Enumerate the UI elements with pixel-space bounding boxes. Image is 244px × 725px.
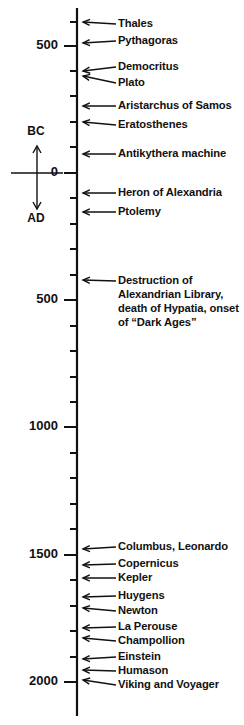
axis-tick-label-500-1: 500 (36, 37, 58, 52)
event-leader-kepler (83, 575, 116, 581)
event-leader-champollion (83, 636, 116, 642)
era-label-bc: BC (27, 124, 45, 138)
event-label-antikythera: Antikythera machine (118, 147, 226, 159)
event-label-champollion: Champollion (118, 634, 185, 646)
event-label-columbus: Columbus, Leonardo (118, 540, 228, 552)
event-label-line: Ptolemy (118, 205, 162, 217)
event-leader-humason (83, 667, 116, 673)
event-label-line: Plato (118, 76, 145, 88)
event-label-pythagoras: Pythagoras (118, 34, 178, 46)
axis-tick-label-2000-26: 2000 (29, 673, 58, 688)
event-label-democritus: Democritus (118, 60, 179, 72)
event-label-line: Copernicus (118, 557, 179, 569)
event-leader-viking (83, 678, 116, 685)
event-label-ptolemy: Ptolemy (118, 205, 162, 217)
axis-tick-label-1000-16: 1000 (29, 418, 58, 433)
axis-tick-label-0-6: 0 (51, 164, 58, 179)
event-label-line: Pythagoras (118, 34, 178, 46)
event-label-line: Champollion (118, 634, 185, 646)
event-leader-eratosthenes (83, 120, 116, 126)
event-label-eratosthenes: Eratosthenes (118, 118, 188, 130)
event-label-newton: Newton (118, 604, 158, 616)
event-label-line: of “Dark Ages” (118, 316, 196, 328)
event-label-line: Newton (118, 604, 158, 616)
event-label-line: Eratosthenes (118, 118, 188, 130)
event-label-line: Aristarchus of Samos (118, 99, 232, 111)
event-label-line: Heron of Alexandria (118, 186, 223, 198)
event-label-line: Humason (118, 664, 169, 676)
event-label-humason: Humason (118, 664, 169, 676)
event-label-copernicus: Copernicus (118, 557, 179, 569)
event-leader-newton (83, 606, 116, 612)
event-label-line: Thales (118, 17, 153, 29)
event-leader-thales (83, 19, 116, 25)
event-label-viking: Viking and Voyager (118, 678, 220, 690)
event-label-aristarchus: Aristarchus of Samos (118, 99, 232, 111)
event-leader-ptolemy (83, 209, 116, 215)
event-label-la-perouse: La Perouse (118, 620, 177, 632)
event-leader-huygens (83, 594, 116, 600)
event-label-line: Destruction of (118, 274, 193, 286)
event-label-einstein: Einstein (118, 650, 161, 662)
event-leader-alexandria (83, 277, 116, 283)
event-label-line: Viking and Voyager (118, 678, 220, 690)
event-label-alexandria: Destruction ofAlexandrian Library,death … (118, 274, 239, 328)
event-label-line: Huygens (118, 589, 165, 601)
event-leader-group (83, 19, 116, 685)
event-label-huygens: Huygens (118, 589, 165, 601)
event-leader-la-perouse (83, 625, 116, 631)
event-label-line: Kepler (118, 571, 153, 583)
event-leader-columbus (83, 546, 116, 552)
axis-tick-label-500-11: 500 (36, 291, 58, 306)
event-label-line: Alexandrian Library, (118, 288, 223, 300)
event-label-thales: Thales (118, 17, 153, 29)
event-leader-pythagoras (83, 40, 116, 46)
event-leader-antikythera (83, 151, 116, 157)
event-leader-heron (83, 190, 116, 196)
event-label-kepler: Kepler (118, 571, 153, 583)
event-label-group: ThalesPythagorasDemocritusPlatoAristarch… (118, 17, 239, 690)
event-label-line: Columbus, Leonardo (118, 540, 228, 552)
event-leader-democritus (83, 67, 116, 73)
axis-tick-label-1500-21: 1500 (29, 546, 58, 561)
timeline-tick-group (64, 22, 77, 682)
event-label-line: La Perouse (118, 620, 177, 632)
event-label-heron: Heron of Alexandria (118, 186, 223, 198)
event-leader-copernicus (83, 562, 116, 568)
event-label-line: death of Hypatia, onset (118, 302, 239, 314)
era-label-ad: AD (27, 211, 45, 225)
event-label-line: Democritus (118, 60, 179, 72)
event-leader-einstein (83, 656, 116, 662)
event-leader-plato (83, 74, 116, 83)
event-label-plato: Plato (118, 76, 145, 88)
timeline-canvas: 5000500100015002000 BCAD ThalesPythagora… (0, 0, 244, 725)
event-leader-aristarchus (83, 103, 116, 109)
event-label-line: Antikythera machine (118, 147, 226, 159)
timeline-figure: 5000500100015002000 BCAD ThalesPythagora… (0, 0, 244, 725)
event-label-line: Einstein (118, 650, 161, 662)
